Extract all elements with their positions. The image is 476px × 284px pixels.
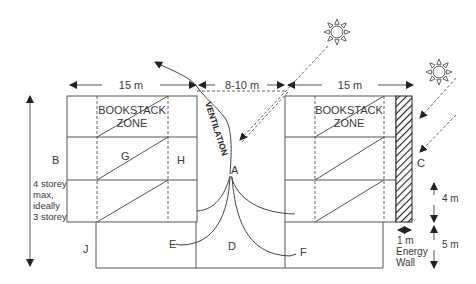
- storey-note-line3: ideally: [33, 200, 60, 211]
- sun-ray: [240, 46, 328, 140]
- sun-ray-spike: [443, 63, 448, 68]
- right-lower-block: [285, 222, 383, 268]
- dimension-right-width: 15 m: [288, 79, 413, 91]
- sun-ray-spike: [443, 76, 448, 81]
- point-label-c: C: [417, 157, 425, 169]
- sun-ray-spike: [341, 23, 346, 28]
- sun-icon: [324, 19, 350, 45]
- storey-note-line4: 3 storey: [33, 211, 67, 222]
- sun-ray: [420, 115, 456, 152]
- ventilation-label: VENTILATION: [203, 101, 230, 157]
- stair-diagonal: [315, 137, 384, 180]
- air-flow-curve: [232, 177, 296, 256]
- sun-ray-spike: [430, 63, 435, 68]
- sun-disc: [331, 26, 343, 38]
- sun-ray-spike: [345, 30, 350, 34]
- point-label-d: D: [228, 240, 236, 252]
- dimension-wall-width: 1 m Energy Wall: [396, 230, 428, 268]
- point-label-a: A: [231, 164, 239, 176]
- upper-storey-label: 4 m: [442, 193, 459, 204]
- sun-ray-spike: [437, 59, 441, 64]
- sun-rays: [240, 46, 456, 152]
- energy-wall: [396, 96, 412, 222]
- dimension-left-width: 15 m: [70, 79, 196, 91]
- stair-diagonal: [97, 137, 168, 180]
- energy-wall-label-line1: Energy: [396, 246, 428, 257]
- gap-width-label: 8-10 m: [225, 79, 259, 91]
- storey-note-line2: max,: [33, 189, 54, 200]
- point-label-e: E: [169, 238, 176, 250]
- ventilation-flow-path: [155, 62, 231, 174]
- point-label-b: B: [52, 154, 59, 166]
- wall-width-label: 1 m: [397, 235, 414, 246]
- sun-ray: [242, 92, 288, 142]
- air-flow-curve: [197, 176, 230, 211]
- library-section-diagram: 15 m 8-10 m 15 m 4 m 5 m 1 m Energy Wall…: [0, 0, 476, 284]
- point-label-f: F: [300, 246, 307, 258]
- dimension-gap-width: 8-10 m: [199, 79, 284, 91]
- dimension-storey-heights: 4 m 5 m: [434, 183, 459, 268]
- sun-ray-spike: [430, 76, 435, 81]
- sun-ray: [420, 78, 456, 118]
- sun-ray-spike: [426, 70, 431, 74]
- sun-ray-spike: [437, 80, 441, 85]
- sun-ray-spike: [328, 23, 333, 28]
- air-flow-curves: [176, 176, 296, 256]
- right-zone-label-line2: ZONE: [334, 117, 365, 129]
- energy-wall-label-line2: Wall: [396, 257, 415, 268]
- right-zone-label-line1: BOOKSTACK: [315, 104, 383, 116]
- stair-diagonal: [315, 180, 384, 222]
- left-zone-label-line2: ZONE: [117, 117, 148, 129]
- sun-icon: [426, 59, 452, 85]
- sun-disc: [433, 66, 445, 78]
- lower-storey-label: 5 m: [442, 239, 459, 250]
- stair-diagonal: [97, 180, 168, 222]
- sun-ray-spike: [341, 36, 346, 41]
- point-label-h: H: [177, 154, 185, 166]
- point-label-g: G: [121, 150, 130, 162]
- sun-ray-spike: [324, 30, 329, 34]
- sun-ray-spike: [335, 19, 339, 24]
- left-zone-label-line1: BOOKSTACK: [98, 104, 166, 116]
- point-label-j: J: [83, 243, 89, 255]
- sun-ray-spike: [447, 70, 452, 74]
- sun-ray-spike: [328, 36, 333, 41]
- right-width-label: 15 m: [338, 79, 362, 91]
- storey-note-line1: 4 storey: [33, 178, 67, 189]
- sun-ray-spike: [335, 40, 339, 45]
- left-width-label: 15 m: [119, 79, 143, 91]
- air-flow-curve: [176, 177, 230, 245]
